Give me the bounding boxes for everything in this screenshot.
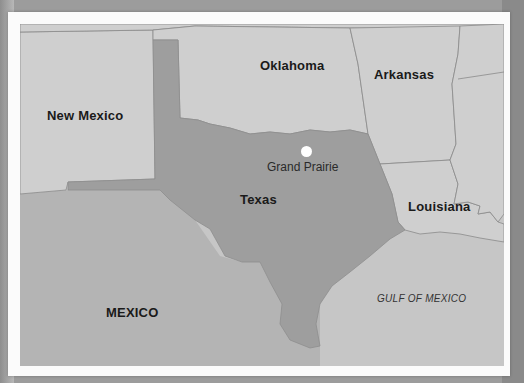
label-oklahoma: Oklahoma [260, 58, 324, 73]
label-texas: Texas [240, 192, 277, 207]
label-louisiana: Louisiana [408, 199, 470, 214]
oklahoma-region [153, 26, 368, 134]
label-arkansas: Arkansas [374, 67, 434, 82]
grand-prairie-marker[interactable] [301, 146, 312, 157]
eastern-states-region [450, 24, 504, 222]
label-grand-prairie: Grand Prairie [267, 160, 338, 174]
label-new-mexico: New Mexico [47, 108, 123, 123]
label-mexico: MEXICO [106, 305, 158, 320]
map-canvas[interactable]: New Mexico Oklahoma Arkansas Texas Louis… [20, 24, 504, 366]
label-gulf-of-mexico: GULF OF MEXICO [377, 293, 466, 304]
